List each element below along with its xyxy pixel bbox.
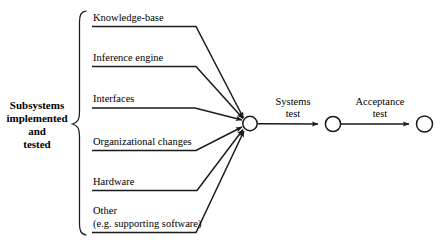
activity-label-knowledge-base: Knowledge-base [93, 12, 164, 23]
activity-arrow-interfaces [92, 108, 242, 120]
activity-label-organizational-changes: Organizational changes [93, 136, 192, 147]
edge-label-acceptance-test: Acceptance test [345, 96, 415, 120]
acceptance-test-node [417, 116, 433, 132]
activity-label-inference-engine: Inference engine [93, 52, 163, 63]
diagram-canvas: Subsystems implemented and tested Knowle… [0, 0, 448, 250]
edge-label-systems-test: Systems test [262, 96, 324, 120]
systems-test-node [325, 116, 340, 131]
edge-label-acceptance-test-line-1: Acceptance [345, 96, 415, 108]
group-brace-icon [73, 11, 87, 235]
edge-label-systems-test-line-1: Systems [262, 96, 324, 108]
group-label-line-4: tested [4, 138, 70, 151]
group-label-line-3: and [4, 125, 70, 138]
group-label: Subsystems implemented and tested [4, 99, 70, 151]
group-label-line-2: implemented [4, 112, 70, 125]
merge-node [243, 116, 257, 130]
activity-label-other: Other [93, 205, 117, 216]
edge-label-acceptance-test-line-2: test [345, 108, 415, 120]
activity-label-hardware: Hardware [93, 176, 134, 187]
activity-label-other-detail: (e.g. supporting software) [93, 218, 201, 229]
activity-label-interfaces: Interfaces [93, 93, 134, 104]
group-label-line-1: Subsystems [4, 99, 70, 112]
edge-label-systems-test-line-2: test [262, 108, 324, 120]
